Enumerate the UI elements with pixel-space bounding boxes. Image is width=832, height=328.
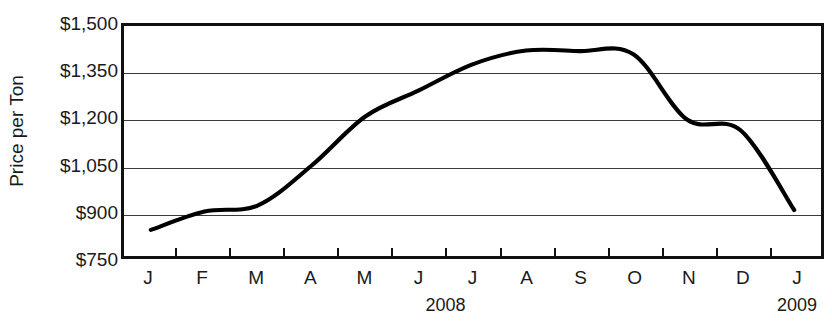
x-tick-label: J <box>414 268 424 289</box>
x-tick-mark <box>608 248 610 259</box>
x-tick-label: A <box>520 268 533 289</box>
x-tick-label: J <box>143 268 153 289</box>
y-tick-label: $750 <box>30 250 118 269</box>
x-axis-tick-labels: JFMAMJJASONDJ <box>121 268 824 296</box>
x-axis-period-labels: 20082009 <box>121 296 824 322</box>
x-tick-label: M <box>356 268 372 289</box>
x-tick-mark <box>716 248 718 259</box>
x-tick-label: A <box>304 268 317 289</box>
x-tick-label: F <box>196 268 208 289</box>
x-tick-mark <box>445 248 447 259</box>
x-tick-label: S <box>574 268 587 289</box>
x-tick-mark <box>500 248 502 259</box>
series-path-price-per-ton <box>151 48 794 230</box>
x-tick-label: O <box>627 268 642 289</box>
x-tick-mark <box>662 248 664 259</box>
x-tick-label: J <box>792 268 802 289</box>
period-label: 2008 <box>425 296 465 316</box>
price-per-ton-line-chart: Price per Ton $750$900$1,050$1,200$1,350… <box>0 0 832 328</box>
x-tick-mark <box>175 248 177 259</box>
x-tick-label: J <box>468 268 478 289</box>
series-line <box>124 26 821 256</box>
x-tick-mark <box>229 248 231 259</box>
y-tick-label: $1,200 <box>30 108 118 127</box>
x-tick-mark <box>554 248 556 259</box>
x-tick-mark <box>770 248 772 259</box>
y-axis-title-text: Price per Ton <box>6 75 28 187</box>
x-tick-label: D <box>736 268 750 289</box>
period-label: 2009 <box>777 296 817 316</box>
y-tick-label: $1,350 <box>30 61 118 80</box>
x-tick-mark <box>391 248 393 259</box>
x-tick-label: M <box>248 268 264 289</box>
y-tick-label: $1,050 <box>30 155 118 174</box>
y-tick-label: $1,500 <box>30 14 118 33</box>
plot-area <box>121 23 824 259</box>
y-axis-tick-labels: $750$900$1,050$1,200$1,350$1,500 <box>30 0 118 280</box>
x-tick-mark <box>337 248 339 259</box>
x-tick-label: N <box>682 268 696 289</box>
x-tick-mark <box>283 248 285 259</box>
y-tick-label: $900 <box>30 202 118 221</box>
y-axis-title: Price per Ton <box>0 0 34 262</box>
